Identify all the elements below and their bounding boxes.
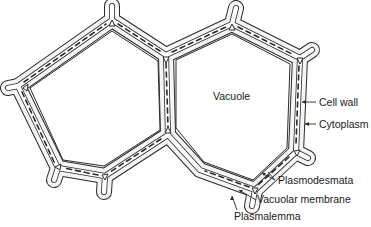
- cytoplasm-label: Cytoplasm: [319, 119, 369, 130]
- plasmodesmata-label: Plasmodesmata: [278, 175, 353, 186]
- vacuole-label: Vacuole: [213, 91, 250, 102]
- vacuolar-membrane-label: Vacuolar membrane: [257, 194, 351, 205]
- plasmalemma-label: Plasmalemma: [234, 211, 301, 222]
- cell-wall-label: Cell wall: [319, 97, 358, 108]
